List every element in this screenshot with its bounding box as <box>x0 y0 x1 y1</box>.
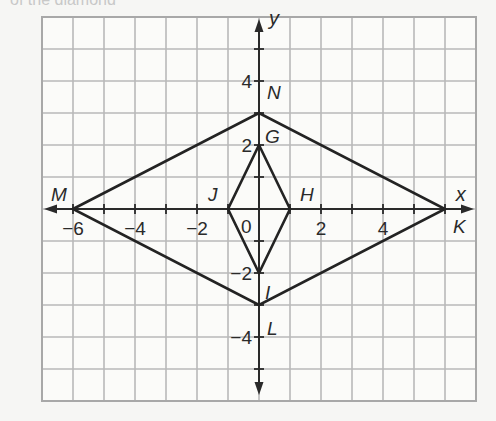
point-label-g: G <box>265 126 280 147</box>
x-tick-label: 2 <box>316 218 327 239</box>
y-axis-label: y <box>267 7 280 29</box>
y-tick-label: 4 <box>241 71 252 92</box>
x-tick-label: 4 <box>378 218 389 239</box>
point-label-l: L <box>267 318 278 339</box>
point-label-i: I <box>265 282 271 303</box>
x-tick-label: −6 <box>62 218 84 239</box>
x-tick-label: −2 <box>186 218 208 239</box>
y-tick-label: −4 <box>230 327 252 348</box>
point-label-j: J <box>207 184 218 205</box>
y-tick-label: 2 <box>241 135 252 156</box>
origin-label: 0 <box>241 216 252 237</box>
coordinate-plane: −6−4−22442−2−40xyMNKLGHIJ <box>0 0 496 421</box>
x-tick-label: −4 <box>124 218 146 239</box>
x-axis-label: x <box>455 183 467 205</box>
point-label-n: N <box>267 82 281 103</box>
diagram-stage: of the diamond −6−4−22442−2−40xyMNKLGHIJ <box>0 0 496 421</box>
point-label-k: K <box>453 216 467 237</box>
header-text-fragment: of the diamond <box>10 0 116 9</box>
point-label-m: M <box>51 184 67 205</box>
y-tick-label: −2 <box>230 263 252 284</box>
point-label-h: H <box>300 184 314 205</box>
